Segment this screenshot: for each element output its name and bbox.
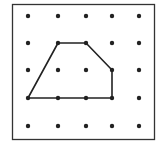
- grid-dot: [26, 124, 30, 128]
- grid-dot: [110, 124, 114, 128]
- grid-dot: [26, 68, 30, 72]
- pentagon-shape: [28, 43, 112, 98]
- grid-dot: [110, 14, 114, 18]
- grid-dot: [84, 124, 88, 128]
- grid-dot: [137, 124, 141, 128]
- grid-dot: [137, 14, 141, 18]
- grid-dot: [26, 41, 30, 45]
- grid-dot: [56, 124, 60, 128]
- grid-dot: [56, 14, 60, 18]
- grid-dot: [137, 41, 141, 45]
- grid-dot: [110, 41, 114, 45]
- geoboard-diagram: [0, 0, 161, 146]
- grid-dot: [26, 14, 30, 18]
- grid-dot: [56, 68, 60, 72]
- grid-dot: [137, 96, 141, 100]
- frame-border: [13, 5, 155, 140]
- grid-dot: [84, 68, 88, 72]
- grid-dot: [84, 14, 88, 18]
- grid-dot: [137, 68, 141, 72]
